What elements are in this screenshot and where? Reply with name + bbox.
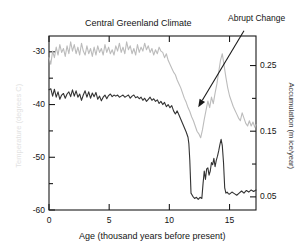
y-left-tick-label: -30 bbox=[15, 47, 45, 56]
y-right-tick-label: 0.05 bbox=[260, 192, 290, 201]
abrupt-change-arrow bbox=[198, 31, 244, 107]
temperature-line bbox=[49, 89, 256, 200]
y-right-tick-label: 0.15 bbox=[260, 127, 290, 136]
y-left-tick-label: -60 bbox=[15, 206, 45, 215]
x-tick-label: 15 bbox=[215, 216, 245, 225]
x-axis-title: Age (thousand years before present) bbox=[79, 232, 226, 241]
x-tick-label: 10 bbox=[154, 216, 184, 225]
y-axis-left-title: Temperature (degrees C) bbox=[15, 71, 23, 181]
chart-title: Central Greenland Climate bbox=[85, 19, 192, 28]
y-right-tick-label: 0.25 bbox=[260, 61, 290, 70]
y-left-tick-label: -40 bbox=[15, 100, 45, 109]
accumulation-line bbox=[49, 42, 256, 138]
annotation-arrow-head bbox=[198, 99, 205, 108]
annotation-arrow-line bbox=[202, 31, 244, 101]
x-tick-label: 0 bbox=[34, 216, 64, 225]
y-left-tick-label: -50 bbox=[15, 153, 45, 162]
annotation-label: Abrupt Change bbox=[228, 14, 285, 23]
x-tick-label: 5 bbox=[94, 216, 124, 225]
climate-chart-figure: Central Greenland Climate Abrupt Change … bbox=[0, 0, 308, 252]
